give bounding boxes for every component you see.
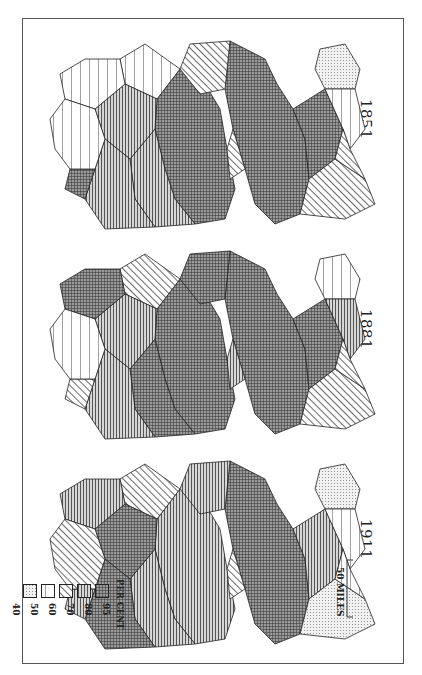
scale-bar-label: 50 MILES bbox=[335, 567, 345, 617]
legend-value-40: 40 bbox=[11, 603, 21, 616]
legend-swatch-50 bbox=[23, 584, 37, 598]
scale-bar: 50 MILES bbox=[335, 559, 355, 619]
region-map-1881 bbox=[23, 239, 405, 444]
legend-value-50: 50 bbox=[29, 603, 39, 616]
figure-frame: 1851 bbox=[22, 18, 404, 664]
legend-swatch-80 bbox=[77, 584, 91, 598]
legend: PER CENT 95 80 70 60 50 40 bbox=[25, 579, 125, 659]
map-panel-1851: 1851 bbox=[23, 29, 405, 234]
legend-title: PER CENT bbox=[115, 579, 125, 629]
legend-value-70: 70 bbox=[65, 603, 75, 616]
legend-value-80: 80 bbox=[83, 603, 93, 616]
legend-swatch-95 bbox=[95, 584, 109, 598]
legend-value-95: 95 bbox=[101, 603, 111, 616]
legend-swatch-70 bbox=[59, 584, 73, 598]
map-panel-1881: 1881 bbox=[23, 239, 405, 444]
legend-value-60: 60 bbox=[47, 603, 57, 616]
figure-canvas: 1851 bbox=[23, 19, 405, 665]
region-map-1851 bbox=[23, 29, 405, 234]
legend-swatch-60 bbox=[41, 584, 55, 598]
